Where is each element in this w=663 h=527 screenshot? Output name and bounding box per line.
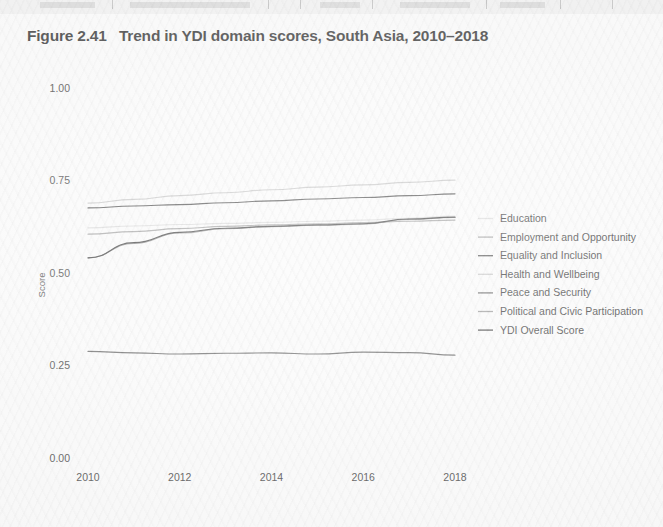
chart-series	[88, 180, 455, 355]
chart-legend: EducationEmployment and OpportunityEqual…	[478, 212, 643, 336]
series-line-political-and-civic-participation	[88, 218, 455, 258]
line-chart: 0.000.250.500.751.00 2010201220142016201…	[0, 0, 663, 527]
series-line-health-and-wellbeing	[88, 180, 455, 203]
legend-label-employment-and-opportunity: Employment and Opportunity	[500, 231, 637, 243]
legend-label-equality-and-inclusion: Equality and Inclusion	[500, 249, 602, 261]
y-tick-label: 0.25	[50, 359, 71, 371]
x-tick-label: 2014	[260, 471, 284, 483]
x-tick-label: 2016	[352, 471, 376, 483]
y-tick-label: 0.00	[50, 452, 71, 464]
x-tick-label: 2018	[443, 471, 467, 483]
x-tick-label: 2010	[76, 471, 100, 483]
series-line-equality-and-inclusion	[88, 194, 455, 208]
legend-label-ydi-overall-score: YDI Overall Score	[500, 324, 584, 336]
x-tick-label: 2012	[168, 471, 192, 483]
y-axis: 0.000.250.500.751.00	[50, 82, 71, 464]
y-tick-label: 0.75	[50, 174, 71, 186]
x-axis: 20102012201420162018	[76, 471, 467, 483]
legend-label-health-and-wellbeing: Health and Wellbeing	[500, 268, 600, 280]
series-line-ydi-overall-score	[88, 217, 455, 258]
series-line-peace-and-security	[88, 351, 455, 355]
y-axis-title: Score	[36, 273, 47, 298]
y-tick-label: 1.00	[50, 82, 71, 94]
figure-page: Figure 2.41 Trend in YDI domain scores, …	[0, 0, 663, 527]
y-tick-label: 0.50	[50, 267, 71, 279]
legend-label-political-and-civic-participation: Political and Civic Participation	[500, 305, 643, 317]
legend-label-peace-and-security: Peace and Security	[500, 286, 592, 298]
legend-label-education: Education	[500, 212, 547, 224]
chart-container: 0.000.250.500.751.00 2010201220142016201…	[0, 0, 663, 527]
